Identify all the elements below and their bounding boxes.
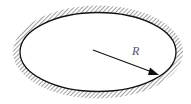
radius-label: R	[131, 44, 140, 58]
ellipse-diagram: R	[0, 0, 191, 104]
